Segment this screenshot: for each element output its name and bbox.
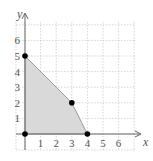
feasible-region-chart: 123456123456 y x: [0, 0, 153, 161]
x-tick-label: 4: [85, 137, 91, 149]
y-tick-label: 2: [15, 97, 21, 109]
x-tick-label: 3: [69, 137, 75, 149]
x-tick-label: 1: [38, 137, 44, 149]
x-tick-label: 2: [53, 137, 59, 149]
y-tick-label: 6: [15, 34, 21, 46]
vertex-point: [22, 53, 28, 59]
y-tick-label: 5: [15, 50, 21, 62]
y-axis-label: y: [16, 7, 23, 21]
x-tick-label: 6: [116, 137, 122, 149]
vertex-point: [69, 100, 75, 106]
y-tick-label: 1: [15, 112, 21, 124]
vertex-point: [22, 131, 28, 137]
y-tick-label: 3: [15, 81, 21, 93]
vertex-point: [85, 131, 91, 137]
x-axis-label: x: [142, 135, 149, 149]
y-tick-label: 4: [15, 66, 21, 78]
x-tick-label: 5: [100, 137, 106, 149]
